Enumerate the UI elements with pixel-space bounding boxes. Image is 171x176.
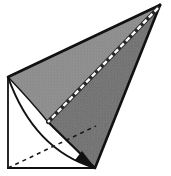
apex-point [159,4,162,7]
geometry-diagram [0,0,171,176]
figure-container: Oblique cone geometric construction engr… [0,0,171,176]
